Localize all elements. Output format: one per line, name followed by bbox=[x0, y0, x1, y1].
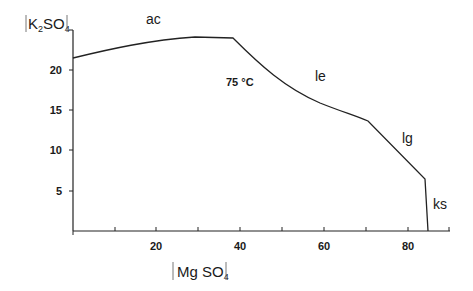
temperature-annotation: 75 °C bbox=[226, 76, 254, 88]
x-tick-label-20: 20 bbox=[150, 240, 162, 252]
y-tick-label-10: 10 bbox=[50, 144, 62, 156]
svg-text:K2SO4: K2SO4 bbox=[28, 15, 70, 34]
x-tick-label-60: 60 bbox=[318, 240, 330, 252]
phase-diagram-chart: 20 15 10 5 20 40 60 80 K2SO4 Mg SO4 ac l… bbox=[0, 0, 473, 291]
region-label-le: le bbox=[315, 68, 326, 84]
y-axis-title: K2SO4 bbox=[26, 15, 70, 34]
solubility-curve bbox=[73, 37, 428, 231]
x-tick-label-80: 80 bbox=[402, 240, 414, 252]
y-tick-label-15: 15 bbox=[50, 104, 62, 116]
region-label-lg: lg bbox=[402, 130, 413, 146]
x-tick-label-40: 40 bbox=[234, 240, 246, 252]
region-label-ks: ks bbox=[433, 196, 447, 212]
y-tick-label-5: 5 bbox=[56, 185, 62, 197]
svg-text:Mg SO4: Mg SO4 bbox=[177, 263, 229, 282]
x-axis-title: Mg SO4 bbox=[173, 262, 229, 282]
region-label-ac: ac bbox=[146, 11, 161, 27]
y-tick-label-20: 20 bbox=[50, 64, 62, 76]
